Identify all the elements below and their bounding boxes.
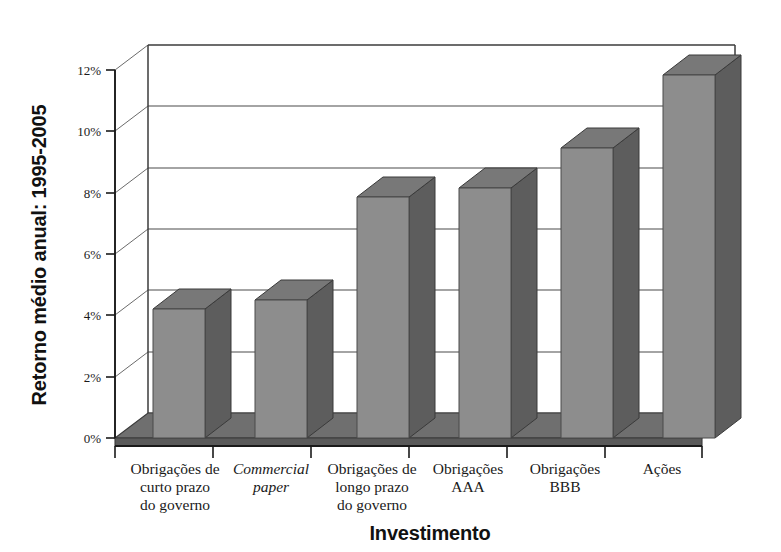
x-category-label-1: Commercial paper [233,460,309,495]
y-tick-label-2: 2% [84,370,102,385]
y-axis-ticks [106,70,115,438]
y-axis-title: Retorno médio anual: 1995-2005 [28,105,50,406]
x-category-label-5-line-0: Ações [643,460,682,477]
x-category-label-3-line-0: Obrigações [433,460,504,477]
y-tick-label-0: 0% [84,431,102,446]
bar-acoes [663,55,741,438]
x-category-label-2-line-0: Obrigações de [327,460,416,477]
x-axis-category-labels: Obrigações de curto prazo do governo Com… [130,460,681,513]
x-category-label-0-line-1: curto prazo [140,478,210,495]
x-category-label-0: Obrigações de curto prazo do governo [130,460,219,513]
x-category-label-1-line-0: Commercial [233,460,309,477]
y-tick-label-12: 12% [77,63,101,78]
y-tick-label-10: 10% [77,124,101,139]
x-category-label-3: Obrigações AAA [433,460,504,495]
x-category-label-1-line-1: paper [252,478,290,495]
x-category-label-3-line-1: AAA [451,478,485,495]
x-category-label-2: Obrigações de longo prazo do governo [327,460,416,513]
x-category-label-4-line-1: BBB [549,478,580,495]
x-axis-title: Investimento [370,522,491,544]
bar-obrigacoes-longo-prazo [357,177,435,438]
x-category-label-2-line-1: longo prazo [335,478,409,495]
chart-container: 12% 10% 8% 6% 4% 2% 0% Obrigações de cur… [0,0,781,552]
y-tick-label-6: 6% [84,247,102,262]
x-category-label-2-line-2: do governo [337,496,407,513]
x-category-label-0-line-0: Obrigações de [130,460,219,477]
bar-commercial-paper [255,280,333,438]
bar-obrigacoes-aaa [459,168,537,438]
x-category-label-4: Obrigações BBB [530,460,601,495]
bar-chart-3d: 12% 10% 8% 6% 4% 2% 0% Obrigações de cur… [0,0,781,552]
y-tick-label-8: 8% [84,186,102,201]
x-category-label-4-line-0: Obrigações [530,460,601,477]
x-category-label-0-line-2: do governo [140,496,210,513]
plot-floor-front [115,438,702,446]
y-axis-tick-labels: 12% 10% 8% 6% 4% 2% 0% [77,63,101,446]
bar-obrigacoes-curto-prazo [153,289,231,438]
y-tick-label-4: 4% [84,308,102,323]
x-category-label-5: Ações [643,460,682,477]
bar-obrigacoes-bbb [561,128,639,438]
x-axis-ticks [115,446,702,458]
